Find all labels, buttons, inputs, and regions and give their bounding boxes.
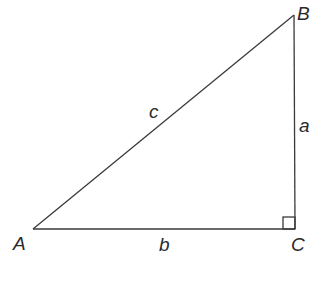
side-label-b: b <box>159 234 170 255</box>
right-angle-marker-icon <box>283 217 295 229</box>
right-triangle-diagram: A B C a b c <box>0 0 329 286</box>
vertex-label-c: C <box>291 234 305 255</box>
side-label-c: c <box>149 101 159 122</box>
side-label-a: a <box>299 115 310 136</box>
vertex-label-b: B <box>297 3 310 24</box>
side-a <box>294 15 295 229</box>
side-c-hypotenuse <box>33 15 294 229</box>
vertex-label-a: A <box>12 233 26 254</box>
